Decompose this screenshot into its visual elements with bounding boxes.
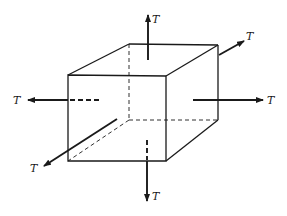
edge-top-back [129, 44, 218, 45]
tension-cube-diagram: T T T T T T [0, 0, 287, 216]
label-left: T [13, 94, 22, 107]
edge-top-left [68, 44, 129, 75]
label-top: T [152, 13, 161, 26]
hidden-edge-bottom-diagonal [68, 120, 129, 161]
edge-bottom-right [166, 120, 218, 161]
force-arrows: T T T T T T [13, 13, 276, 203]
label-back: T [246, 30, 255, 43]
label-bottom: T [152, 190, 161, 203]
arrow-front-icon [44, 119, 117, 166]
label-right: T [267, 94, 276, 107]
label-front: T [30, 162, 39, 175]
arrow-back-icon [219, 41, 244, 55]
edge-top-right [166, 45, 218, 76]
front-face [68, 75, 166, 161]
cube [68, 44, 218, 161]
